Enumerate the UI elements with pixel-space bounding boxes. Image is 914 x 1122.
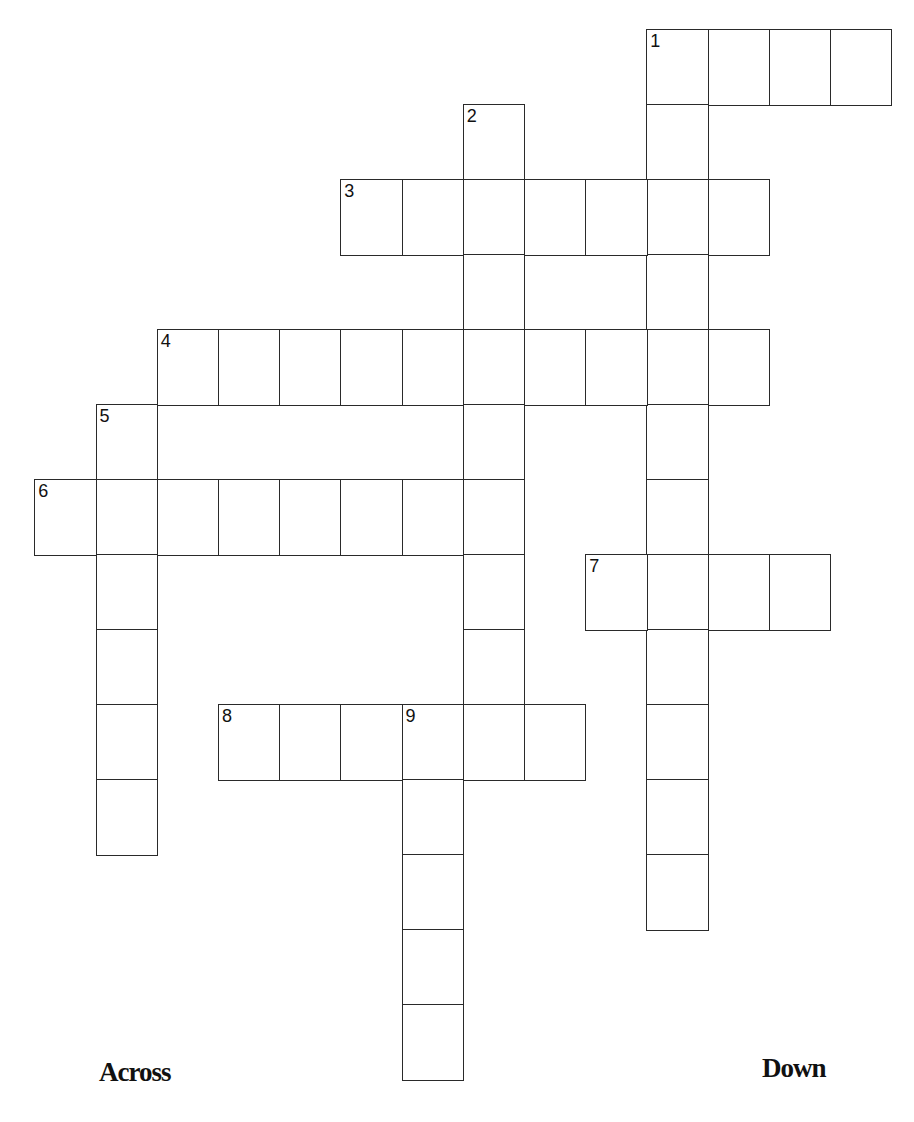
crossword-cell[interactable]: [708, 29, 771, 105]
crossword-cell[interactable]: [708, 179, 771, 255]
crossword-cell[interactable]: [646, 104, 709, 180]
crossword-cell[interactable]: [463, 404, 526, 480]
crossword-cell[interactable]: [340, 329, 403, 405]
clue-number: 5: [100, 406, 110, 426]
crossword-cell[interactable]: [96, 704, 159, 780]
crossword-cell[interactable]: [463, 629, 526, 705]
crossword-cell[interactable]: [830, 29, 893, 105]
down-heading: Down: [762, 1053, 826, 1084]
crossword-cell[interactable]: [402, 479, 465, 555]
crossword-cell[interactable]: [646, 479, 709, 555]
crossword-cell[interactable]: [463, 554, 526, 630]
crossword-cell[interactable]: [708, 329, 771, 405]
crossword-cell[interactable]: 3: [340, 179, 403, 255]
crossword-cell[interactable]: [585, 179, 648, 255]
crossword-cell[interactable]: [96, 779, 159, 855]
crossword-cell[interactable]: [402, 1004, 465, 1080]
crossword-cell[interactable]: 9: [402, 704, 465, 780]
crossword-cell[interactable]: 7: [585, 554, 648, 630]
crossword-cell[interactable]: [402, 854, 465, 930]
crossword-cell[interactable]: [463, 179, 526, 255]
crossword-cell[interactable]: [646, 329, 709, 405]
crossword-cell[interactable]: [279, 329, 342, 405]
clue-number: 7: [589, 556, 599, 576]
crossword-cell[interactable]: [279, 704, 342, 780]
crossword-cell[interactable]: [279, 479, 342, 555]
crossword-cell[interactable]: [340, 479, 403, 555]
crossword-cell[interactable]: [769, 29, 832, 105]
crossword-cell[interactable]: [646, 854, 709, 930]
crossword-cell[interactable]: [646, 179, 709, 255]
crossword-cell[interactable]: [646, 404, 709, 480]
clue-number: 3: [344, 181, 354, 201]
crossword-cell[interactable]: [708, 554, 771, 630]
crossword-cell[interactable]: [646, 554, 709, 630]
crossword-cell[interactable]: [340, 704, 403, 780]
crossword-cell[interactable]: 6: [34, 479, 97, 555]
crossword-cell[interactable]: [218, 479, 281, 555]
crossword-cell[interactable]: [769, 554, 832, 630]
crossword-cell[interactable]: [646, 629, 709, 705]
crossword-cell[interactable]: 5: [96, 404, 159, 480]
crossword-cell[interactable]: [463, 704, 526, 780]
crossword-cell[interactable]: [585, 329, 648, 405]
crossword-cell[interactable]: [96, 554, 159, 630]
clue-number: 2: [467, 106, 477, 126]
across-heading: Across: [99, 1057, 171, 1088]
crossword-cell[interactable]: [524, 179, 587, 255]
crossword-cell[interactable]: [646, 779, 709, 855]
crossword-cell[interactable]: [524, 704, 587, 780]
crossword-cell[interactable]: [402, 779, 465, 855]
clue-number: 1: [650, 31, 660, 51]
crossword-cell[interactable]: [218, 329, 281, 405]
crossword-cell[interactable]: [463, 479, 526, 555]
crossword-cell[interactable]: [402, 179, 465, 255]
crossword-cell[interactable]: 1: [646, 29, 709, 105]
clue-number: 8: [222, 706, 232, 726]
crossword-cell[interactable]: 8: [218, 704, 281, 780]
clue-number: 9: [406, 706, 416, 726]
clue-number: 4: [161, 331, 171, 351]
crossword-cell[interactable]: 2: [463, 104, 526, 180]
crossword-cell[interactable]: [524, 329, 587, 405]
crossword-cell[interactable]: [463, 329, 526, 405]
crossword-cell[interactable]: [646, 704, 709, 780]
crossword-cell[interactable]: [402, 929, 465, 1005]
crossword-cell[interactable]: [96, 629, 159, 705]
clue-number: 6: [38, 481, 48, 501]
crossword-grid: 123456789: [0, 0, 914, 1122]
crossword-cell[interactable]: [646, 254, 709, 330]
crossword-cell[interactable]: [402, 329, 465, 405]
crossword-cell[interactable]: [157, 479, 220, 555]
crossword-cell[interactable]: [463, 254, 526, 330]
crossword-cell[interactable]: [96, 479, 159, 555]
crossword-cell[interactable]: 4: [157, 329, 220, 405]
